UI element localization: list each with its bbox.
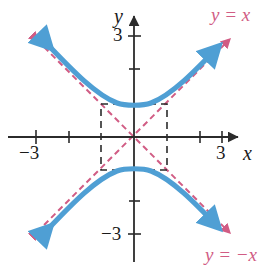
y-tick-label-minus-3: −3 xyxy=(101,224,121,243)
x-tick-label-minus-3: −3 xyxy=(19,143,39,162)
hyperbola-figure xyxy=(0,0,265,268)
x-axis-label: x xyxy=(243,143,252,163)
y-tick-label-3: 3 xyxy=(113,25,123,44)
y-axis-label: y xyxy=(114,6,123,26)
x-tick-label-3: 3 xyxy=(216,143,226,162)
asymptote-label-negative: y = −x xyxy=(205,245,257,264)
x-axis xyxy=(8,130,238,144)
asymptote-label-positive: y = x xyxy=(211,5,250,24)
